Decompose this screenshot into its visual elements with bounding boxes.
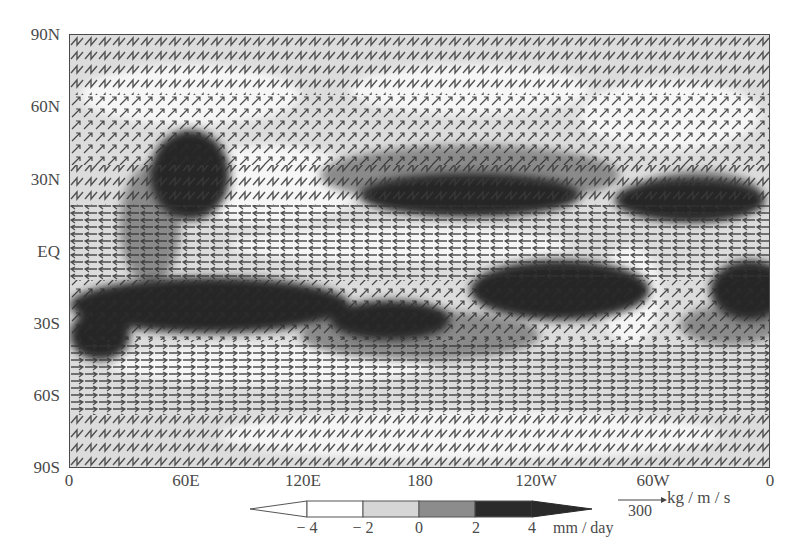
- y-tick-90n: 90N: [8, 26, 60, 43]
- colorbar: [248, 498, 594, 520]
- reference-vector-value: 300: [628, 502, 652, 519]
- x-tick-60e: 60E: [156, 472, 216, 490]
- y-tick-60n: 60N: [8, 98, 60, 115]
- x-tick-120w: 120W: [506, 472, 566, 490]
- reference-vector-unit: kg / m / s: [667, 489, 730, 507]
- colorbar-tick-neg4: − 4: [292, 519, 322, 536]
- x-tick-0: 0: [39, 472, 99, 490]
- y-tick-60s: 60S: [8, 387, 60, 404]
- colorbar-tick-neg2: − 2: [348, 519, 378, 536]
- colorbar-tick-2: 2: [461, 519, 491, 536]
- map-plot-area: [69, 34, 770, 468]
- colorbar-tick-0: 0: [404, 519, 434, 536]
- x-tick-180: 180: [390, 472, 450, 490]
- colorbar-tick-4: 4: [517, 519, 547, 536]
- y-tick-eq: EQ: [8, 243, 60, 260]
- vector-arrows: [70, 35, 770, 468]
- y-tick-30n: 30N: [8, 171, 60, 188]
- y-tick-30s: 30S: [8, 315, 60, 332]
- colorbar-unit: mm / day: [553, 519, 613, 536]
- x-tick-120e: 120E: [273, 472, 333, 490]
- x-tick-0-end: 0: [740, 472, 798, 490]
- shaded-field-and-vectors: [70, 35, 770, 468]
